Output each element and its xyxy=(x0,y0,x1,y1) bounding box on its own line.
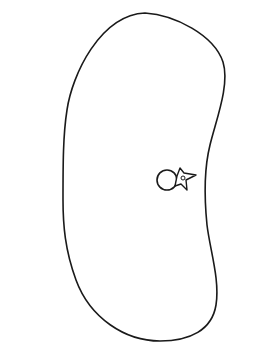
flow-diagram xyxy=(0,0,271,353)
observer-icon xyxy=(157,168,196,190)
closed-loop-curve xyxy=(63,13,225,341)
